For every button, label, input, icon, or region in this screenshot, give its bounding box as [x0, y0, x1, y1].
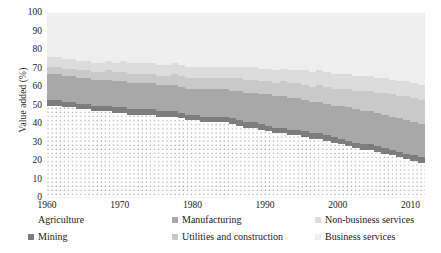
stacked-area-svg — [47, 13, 425, 198]
y-tick-label: 30 — [12, 138, 42, 148]
legend-swatch-icon — [315, 217, 321, 223]
x-tick-label: 1980 — [183, 200, 202, 211]
legend-swatch-icon — [315, 234, 321, 240]
y-tick-label: 50 — [12, 101, 42, 111]
legend-item[interactable]: Utilities and construction — [172, 231, 283, 243]
y-tick-label: 100 — [12, 8, 42, 18]
legend-item[interactable]: Non-business services — [315, 214, 414, 226]
y-tick-label: 20 — [12, 156, 42, 166]
y-tick-label: 10 — [12, 175, 42, 185]
y-tick-label: 80 — [12, 45, 42, 55]
legend-swatch-icon — [172, 234, 178, 240]
x-tick-label: 1970 — [110, 200, 129, 211]
legend-label: Utilities and construction — [182, 231, 283, 243]
y-tick-label: 90 — [12, 27, 42, 37]
legend-item[interactable]: Manufacturing — [172, 214, 241, 226]
legend-label: Business services — [325, 231, 395, 243]
legend-item[interactable]: Business services — [315, 231, 395, 243]
plot-area — [47, 13, 425, 198]
legend-label: Non-business services — [325, 214, 414, 226]
y-axis-tick-labels: 1009080706050403020100 — [8, 0, 42, 198]
x-axis-tick-labels: 196019701980199020002010 — [47, 200, 425, 214]
y-tick-label: 70 — [12, 64, 42, 74]
chart-figure: Value added (%) 1009080706050403020100 1… — [0, 0, 441, 253]
legend-label: Agriculture — [38, 214, 84, 226]
legend-label: Manufacturing — [182, 214, 241, 226]
legend-swatch-icon — [28, 234, 34, 240]
legend-item[interactable]: Mining — [28, 231, 67, 243]
x-tick-label: 1990 — [256, 200, 275, 211]
legend-swatch-icon — [172, 217, 178, 223]
legend-swatch-icon — [28, 217, 34, 223]
y-tick-label: 40 — [12, 119, 42, 129]
chart-legend: AgricultureManufacturingNon-business ser… — [0, 214, 441, 253]
legend-row-1: AgricultureManufacturingNon-business ser… — [0, 214, 441, 231]
legend-row-2: MiningUtilities and constructionBusiness… — [0, 231, 441, 248]
legend-label: Mining — [38, 231, 67, 243]
x-tick-label: 2000 — [328, 200, 347, 211]
x-tick-label: 1960 — [38, 200, 57, 211]
legend-item[interactable]: Agriculture — [28, 214, 84, 226]
y-tick-label: 60 — [12, 82, 42, 92]
x-tick-label: 2010 — [401, 200, 420, 211]
